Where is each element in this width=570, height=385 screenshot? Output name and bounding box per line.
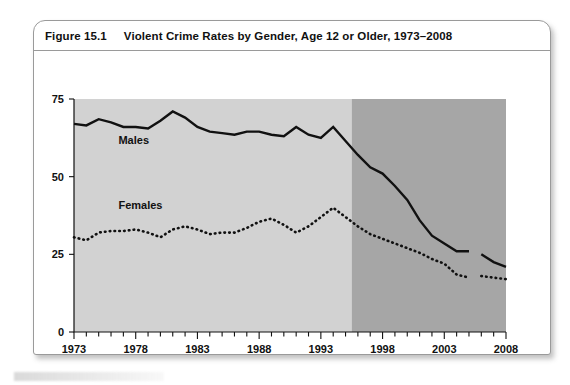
x-tick-label: 1988 bbox=[247, 343, 271, 355]
band-redesigned-methodology bbox=[352, 99, 506, 332]
y-axis-tick-labels: 0255075 bbox=[52, 93, 64, 338]
chart-plot-region: 0255075 19731978198319881993199820032008… bbox=[34, 51, 550, 355]
x-tick-label: 1998 bbox=[370, 343, 394, 355]
figure-box: Figure 15.1 Violent Crime Rates by Gende… bbox=[33, 20, 551, 355]
x-tick-label: 1993 bbox=[309, 343, 333, 355]
y-tick-label: 0 bbox=[58, 326, 64, 338]
y-tick-label: 50 bbox=[52, 171, 64, 183]
y-tick-label: 75 bbox=[52, 93, 64, 105]
x-tick-label: 2008 bbox=[494, 343, 518, 355]
figure-title: Violent Crime Rates by Gender, Age 12 or… bbox=[124, 30, 453, 42]
figure-caption: Figure 15.1 Violent Crime Rates by Gende… bbox=[34, 21, 550, 51]
series-label-females: Females bbox=[118, 199, 162, 211]
x-tick-label: 1983 bbox=[185, 343, 209, 355]
x-tick-label: 1978 bbox=[123, 343, 147, 355]
x-tick-label: 2003 bbox=[432, 343, 456, 355]
figure-number: Figure 15.1 bbox=[45, 30, 107, 42]
x-axis-tick-labels: 19731978198319881993199820032008 bbox=[62, 343, 518, 355]
series-label-males: Males bbox=[118, 134, 149, 146]
page-footer-artifact bbox=[14, 372, 164, 381]
y-tick-label: 25 bbox=[52, 248, 64, 260]
line-chart: 0255075 19731978198319881993199820032008… bbox=[34, 51, 552, 355]
x-tick-label: 1973 bbox=[62, 343, 86, 355]
